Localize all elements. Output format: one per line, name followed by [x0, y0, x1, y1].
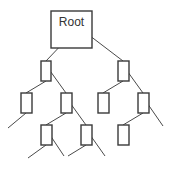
tree-edge — [103, 81, 123, 93]
tree-node — [118, 61, 129, 81]
tree-node — [98, 93, 109, 113]
tree-node — [118, 125, 129, 145]
tree-node — [138, 93, 149, 113]
tree-edge — [46, 113, 66, 125]
tree-node — [61, 93, 72, 113]
tree-node — [21, 93, 32, 113]
tree-edge — [28, 145, 46, 158]
root-node-label: Root — [59, 15, 85, 29]
tree-edge — [8, 113, 26, 128]
tree-node — [81, 125, 92, 145]
tree-edge — [26, 81, 46, 93]
tree-diagram: Root — [0, 0, 181, 171]
tree-nodes: Root — [21, 11, 149, 145]
tree-edge — [68, 145, 86, 156]
tree-node — [41, 61, 51, 81]
tree-edge — [123, 113, 143, 125]
tree-node — [41, 125, 52, 145]
